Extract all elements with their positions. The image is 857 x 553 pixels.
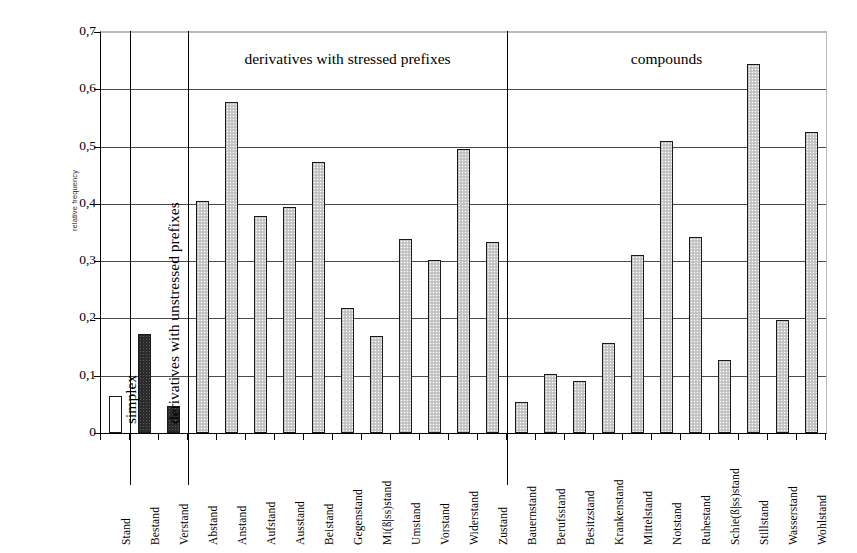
x-axis-category-label: Zustand bbox=[497, 507, 509, 545]
bar bbox=[544, 374, 557, 433]
x-axis-category-label: Abstand bbox=[207, 506, 219, 545]
bar bbox=[573, 381, 586, 433]
x-axis-category-label: Wasserstand bbox=[787, 486, 799, 545]
bar bbox=[602, 343, 615, 434]
x-axis-tick-mark bbox=[158, 433, 159, 440]
group-separator bbox=[507, 31, 508, 485]
bar bbox=[254, 216, 267, 433]
y-axis-tick-mark bbox=[94, 204, 101, 205]
x-axis-tick-mark bbox=[448, 433, 449, 440]
bar bbox=[486, 242, 499, 433]
x-axis-category-labels: StandBestandVerstandAbstandAnstandAufsta… bbox=[100, 443, 826, 553]
x-axis-category-label: Anstand bbox=[236, 506, 248, 545]
x-axis-category-label: Bestand bbox=[149, 507, 161, 545]
x-axis-tick-mark bbox=[187, 433, 188, 440]
y-axis-tick-label: 0,6 bbox=[48, 80, 96, 96]
x-axis-tick-mark bbox=[709, 433, 710, 440]
y-axis-tick-label: 0,2 bbox=[48, 309, 96, 325]
group-title: simplex bbox=[122, 375, 140, 424]
bar bbox=[747, 64, 760, 433]
x-axis-category-label: Stillstand bbox=[758, 500, 770, 545]
gridline bbox=[101, 147, 826, 148]
bar bbox=[341, 308, 354, 433]
x-axis-tick-mark bbox=[564, 433, 565, 440]
x-axis-tick-mark bbox=[129, 433, 130, 440]
y-axis-tick-mark bbox=[94, 318, 101, 319]
group-title: derivatives with stressed prefixes bbox=[188, 50, 507, 68]
x-axis-category-label: Mi(ß|ss)stand bbox=[381, 481, 393, 545]
x-axis-tick-mark bbox=[796, 433, 797, 440]
x-axis-tick-mark bbox=[361, 433, 362, 440]
y-axis-tick-mark bbox=[94, 32, 101, 33]
y-axis-tick-label: 0 bbox=[48, 424, 96, 440]
x-axis-tick-mark bbox=[274, 433, 275, 440]
bar bbox=[689, 237, 702, 433]
x-axis-category-label: Aufstand bbox=[265, 502, 277, 545]
y-axis-tick-label: 0,7 bbox=[48, 23, 96, 39]
gridline bbox=[101, 89, 826, 90]
y-axis-tick-label: 0,3 bbox=[48, 252, 96, 268]
x-axis-category-label: Stand bbox=[120, 518, 132, 545]
x-axis-tick-mark bbox=[622, 433, 623, 440]
x-axis-category-label: Schie(ß|ss)stand bbox=[729, 468, 741, 545]
bar bbox=[196, 201, 209, 433]
x-axis-tick-mark bbox=[390, 433, 391, 440]
x-axis-category-label: Krankenstand bbox=[613, 479, 625, 545]
x-axis-category-label: Umstand bbox=[410, 502, 422, 545]
x-axis-category-label: Besitzstand bbox=[584, 490, 596, 545]
y-axis-tick-label: 0,1 bbox=[48, 367, 96, 383]
x-axis-category-label: Ausstand bbox=[294, 501, 306, 545]
bar-chart-figure: relative frequency 00,10,20,30,40,50,60,… bbox=[0, 0, 857, 553]
x-axis-category-label: Bauernstand bbox=[526, 486, 538, 545]
y-axis-tick-label: 0,4 bbox=[48, 195, 96, 211]
x-axis-tick-mark bbox=[535, 433, 536, 440]
x-axis-tick-mark bbox=[477, 433, 478, 440]
bar bbox=[805, 132, 818, 433]
x-axis-category-label: Beistand bbox=[323, 504, 335, 545]
x-axis-tick-mark bbox=[303, 433, 304, 440]
group-title: derivatives with unstressed prefixes bbox=[165, 202, 183, 424]
bar bbox=[399, 239, 412, 433]
x-axis-tick-mark bbox=[419, 433, 420, 440]
y-axis-tick-mark bbox=[94, 147, 101, 148]
y-axis-tick-label: 0,5 bbox=[48, 138, 96, 154]
bar bbox=[776, 320, 789, 433]
bar bbox=[515, 402, 528, 434]
x-axis-tick-mark bbox=[332, 433, 333, 440]
x-axis-tick-mark bbox=[651, 433, 652, 440]
x-axis-tick-mark bbox=[680, 433, 681, 440]
bar bbox=[109, 396, 122, 433]
plot-area: simplexderivatives with unstressed prefi… bbox=[100, 31, 827, 434]
bar bbox=[660, 141, 673, 433]
y-axis-tick-mark bbox=[94, 376, 101, 377]
bar bbox=[225, 102, 238, 433]
x-axis-tick-mark bbox=[216, 433, 217, 440]
x-axis-category-label: Verstand bbox=[178, 504, 190, 545]
x-axis-tick-mark bbox=[767, 433, 768, 440]
x-axis-category-label: Wohlstand bbox=[816, 495, 828, 545]
x-axis-category-label: Mittelstand bbox=[642, 491, 654, 545]
bar bbox=[283, 207, 296, 433]
y-axis-tick-mark bbox=[94, 89, 101, 90]
bar bbox=[631, 255, 644, 433]
bar bbox=[428, 260, 441, 433]
bar bbox=[457, 149, 470, 433]
x-axis-tick-mark bbox=[593, 433, 594, 440]
x-axis-tick-mark bbox=[825, 433, 826, 440]
x-axis-tick-mark bbox=[506, 433, 507, 440]
bar bbox=[718, 360, 731, 433]
y-axis-tick-labels: 00,10,20,30,40,50,60,7 bbox=[40, 0, 96, 553]
y-axis-tick-mark bbox=[94, 261, 101, 262]
x-axis-tick-mark bbox=[100, 433, 101, 440]
group-title: compounds bbox=[507, 50, 826, 68]
group-separator bbox=[188, 31, 189, 485]
x-axis-category-label: Gegenstand bbox=[352, 489, 364, 545]
x-axis-tick-mark bbox=[245, 433, 246, 440]
bar bbox=[370, 336, 383, 433]
bar bbox=[312, 162, 325, 433]
x-axis-category-label: Berufsstand bbox=[555, 488, 567, 545]
x-axis-category-label: Ruhestand bbox=[700, 495, 712, 545]
gridline bbox=[101, 32, 826, 33]
x-axis-category-label: Widerstand bbox=[468, 491, 480, 545]
x-axis-tick-marks bbox=[100, 433, 826, 441]
